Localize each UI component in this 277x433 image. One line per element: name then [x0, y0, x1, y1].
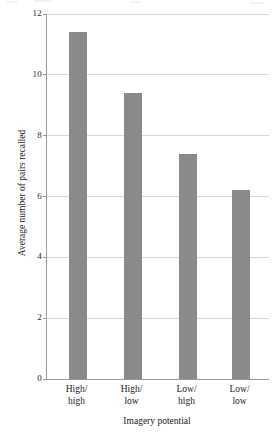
- y-axis-tick-mark: [43, 14, 47, 15]
- x-axis-tick-label-line: Low/: [157, 384, 217, 396]
- y-axis-tick-mark: [43, 379, 47, 380]
- y-axis-title: Average number of pairs recalled: [17, 93, 27, 293]
- bar: [232, 190, 250, 379]
- bar-chart-figure: 024681012 High/highHigh/lowLow/highLow/l…: [0, 0, 277, 433]
- scan-artifact: [34, 0, 52, 2]
- scan-artifact: [130, 1, 140, 3]
- x-axis-tick-label-line: High/: [102, 384, 162, 396]
- scan-artifact: [6, 1, 18, 3]
- x-axis-tick-label: High/low: [102, 384, 162, 407]
- x-axis-tick-label-line: High/: [47, 384, 107, 396]
- y-axis-tick-mark: [43, 74, 47, 75]
- x-axis-tick-label-line: low: [210, 396, 270, 408]
- bar: [69, 32, 87, 379]
- x-axis-tick-label: High/high: [47, 384, 107, 407]
- x-axis-title: Imagery potential: [46, 416, 268, 427]
- y-axis-tick-label: 0: [12, 374, 42, 383]
- y-axis-tick-label: 10: [12, 70, 42, 79]
- y-axis-tick-label: 2: [12, 313, 42, 322]
- x-axis-tick-label-line: Low/: [210, 384, 270, 396]
- x-axis-tick-label-line: high: [157, 396, 217, 408]
- bar: [179, 154, 197, 379]
- y-axis-tick-label: 12: [12, 9, 42, 18]
- y-axis-tick-mark: [43, 196, 47, 197]
- y-axis-tick-mark: [43, 257, 47, 258]
- x-axis-tick-label: Low/high: [157, 384, 217, 407]
- y-axis-tick-mark: [43, 135, 47, 136]
- x-axis-tick-labels: High/highHigh/lowLow/highLow/low: [46, 384, 268, 412]
- x-axis-tick-label: Low/low: [210, 384, 270, 407]
- x-axis-tick-label-line: high: [47, 396, 107, 408]
- x-axis-tick-label-line: low: [102, 396, 162, 408]
- y-axis-tick-mark: [43, 318, 47, 319]
- gridline: [47, 14, 269, 15]
- plot-area: [46, 14, 268, 379]
- scan-artifact: [250, 2, 264, 4]
- bar: [124, 93, 142, 379]
